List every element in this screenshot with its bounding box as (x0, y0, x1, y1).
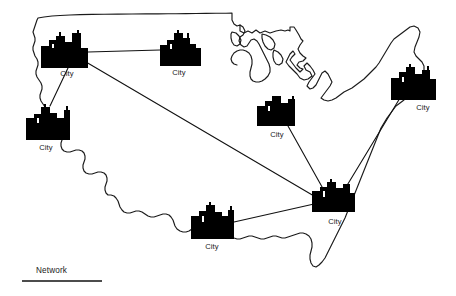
legend-network: Network (22, 266, 102, 281)
legend-layer: Network (0, 0, 456, 296)
network-map-figure: City City (0, 0, 456, 296)
legend-label: Network (36, 266, 68, 275)
